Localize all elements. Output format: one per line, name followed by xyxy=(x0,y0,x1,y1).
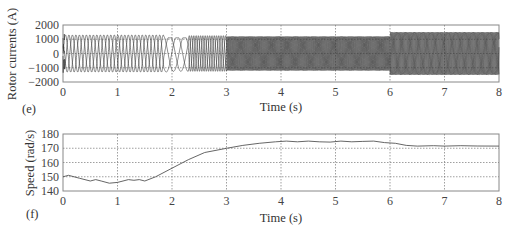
x-tick-labels-e: 012345678 xyxy=(60,85,502,99)
x-tick-f: 1 xyxy=(115,194,121,208)
y-tick-f: 160 xyxy=(41,156,59,170)
x-tick-e: 5 xyxy=(333,85,339,99)
figure: −2000−1000010002000 012345678 Rotor curr… xyxy=(0,0,523,239)
y-tick-e: −1000 xyxy=(28,61,59,75)
x-tick-e: 0 xyxy=(60,85,66,99)
x-tick-labels-f: 012345678 xyxy=(60,194,502,208)
x-tick-f: 5 xyxy=(333,194,339,208)
x-tick-f: 7 xyxy=(442,194,448,208)
x-tick-e: 2 xyxy=(169,85,175,99)
y-tick-f: 170 xyxy=(41,141,59,155)
y-tick-f: 150 xyxy=(41,170,59,184)
x-tick-e: 3 xyxy=(224,85,230,99)
speed-plot: 140150160170180 012345678 Speed (rad/s) … xyxy=(23,127,502,225)
y-tick-f: 140 xyxy=(41,184,59,198)
x-tick-e: 4 xyxy=(278,85,284,99)
x-tick-e: 7 xyxy=(442,85,448,99)
panel-label-e: (e) xyxy=(22,102,36,116)
rotor-currents-plot: −2000−1000010002000 012345678 Rotor curr… xyxy=(5,8,502,116)
y-tick-f: 180 xyxy=(41,127,59,141)
y-axis-label-f: Speed (rad/s) xyxy=(23,130,37,196)
y-tick-e: −2000 xyxy=(28,75,59,89)
x-tick-f: 6 xyxy=(387,194,393,208)
y-tick-e: 0 xyxy=(53,47,59,61)
x-tick-f: 4 xyxy=(278,194,284,208)
x-tick-e: 6 xyxy=(387,85,393,99)
x-axis-label-f: Time (s) xyxy=(260,211,302,225)
x-tick-f: 2 xyxy=(169,194,175,208)
x-axis-label-e: Time (s) xyxy=(260,100,302,114)
y-tick-labels-e: −2000−1000010002000 xyxy=(28,18,59,89)
x-tick-f: 8 xyxy=(496,194,502,208)
x-tick-e: 8 xyxy=(496,85,502,99)
panel-label-f: (f) xyxy=(26,207,39,221)
y-axis-label-e: Rotor currents (A) xyxy=(5,8,19,100)
x-tick-e: 1 xyxy=(115,85,121,99)
y-tick-labels-f: 140150160170180 xyxy=(41,127,59,198)
x-tick-f: 0 xyxy=(60,194,66,208)
y-tick-e: 2000 xyxy=(35,18,59,32)
x-tick-f: 3 xyxy=(224,194,230,208)
y-tick-e: 1000 xyxy=(35,32,59,46)
